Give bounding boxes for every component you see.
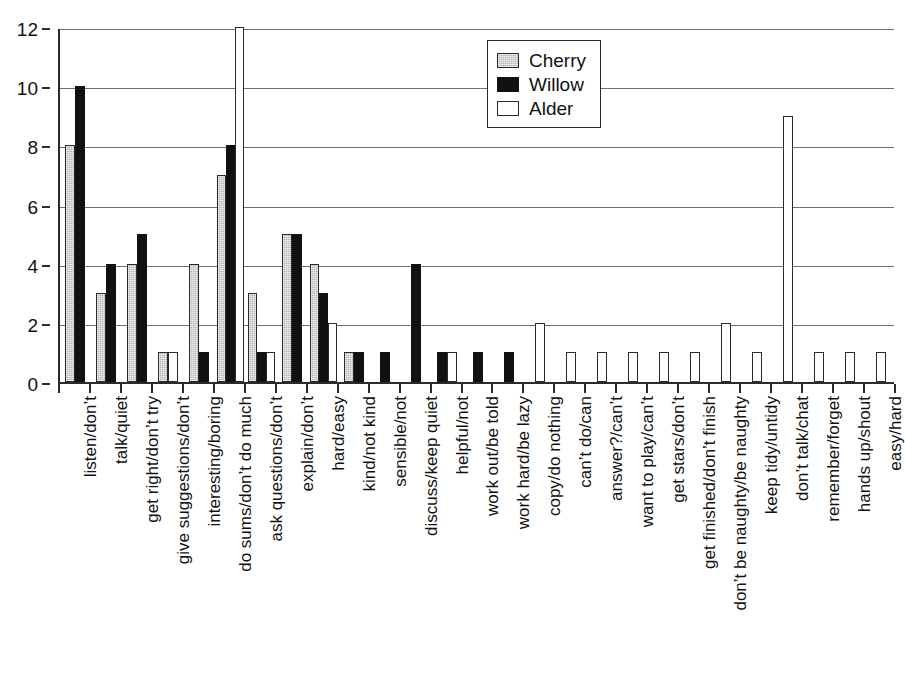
x-tick-mark xyxy=(120,384,122,393)
legend-item-willow[interactable]: Willow xyxy=(497,72,586,96)
bar-alder xyxy=(876,352,886,382)
bar-cherry xyxy=(248,293,257,382)
bar-alder xyxy=(628,352,638,382)
bar-cherry xyxy=(344,352,354,382)
x-tick-mark xyxy=(677,384,679,393)
bar-group xyxy=(679,29,710,382)
x-tick-label: ask questions/don’t xyxy=(268,396,285,542)
bar-cherry xyxy=(127,264,137,382)
bar-cherry xyxy=(282,234,292,382)
y-tick-label: 0 xyxy=(27,375,38,394)
x-tick-label: get finished/don’t finish xyxy=(701,396,718,569)
bar-alder xyxy=(535,323,545,382)
bar-alder xyxy=(597,352,607,382)
x-tick-mark xyxy=(399,384,401,393)
x-tick-mark xyxy=(58,384,60,393)
legend-label: Willow xyxy=(529,75,584,94)
bar-alder xyxy=(447,352,457,382)
x-tick-mark xyxy=(461,384,463,393)
bar-group xyxy=(432,29,463,382)
x-tick-mark xyxy=(306,384,308,393)
bar-willow xyxy=(319,293,328,382)
x-tick-label: interesting/boring xyxy=(206,396,223,526)
bar-willow xyxy=(354,352,364,382)
y-tick-mark xyxy=(42,206,50,208)
bar-alder xyxy=(721,323,731,382)
bar-group xyxy=(617,29,648,382)
y-tick-label: 2 xyxy=(27,315,38,334)
x-tick-mark xyxy=(615,384,617,393)
y-tick-mark xyxy=(42,28,50,30)
bar-alder xyxy=(783,116,793,382)
x-tick-label: copy/do nothing xyxy=(546,396,563,516)
legend-item-cherry[interactable]: Cherry xyxy=(497,48,586,72)
x-tick-label: get right/don’t try xyxy=(144,396,161,523)
bar-alder xyxy=(659,352,669,382)
bar-willow xyxy=(411,264,421,382)
bar-group xyxy=(122,29,153,382)
x-axis-labels: listen/don’ttalk/quietget right/don’t tr… xyxy=(58,396,894,696)
bar-group xyxy=(91,29,122,382)
x-tick-label: don’t be naughty/be naughty xyxy=(732,396,749,611)
bar-willow xyxy=(75,86,85,382)
y-tick-mark xyxy=(42,146,50,148)
x-tick-mark xyxy=(337,384,339,393)
bar-cherry xyxy=(217,175,226,382)
legend-swatch-icon xyxy=(497,101,519,116)
x-axis-ticks xyxy=(58,384,894,393)
legend-swatch-icon xyxy=(497,53,519,68)
x-tick-label: get stars/don’t xyxy=(670,396,687,503)
x-tick-label: want to play/can’t xyxy=(639,396,656,527)
x-tick-label: discuss/keep quiet xyxy=(423,396,440,536)
y-tick-label: 4 xyxy=(27,256,38,275)
bar-group xyxy=(370,29,401,382)
bar-group xyxy=(153,29,184,382)
bar-group xyxy=(741,29,772,382)
x-tick-mark xyxy=(832,384,834,393)
x-tick-mark xyxy=(430,384,432,393)
x-tick-mark xyxy=(584,384,586,393)
x-tick-mark xyxy=(894,384,896,393)
bar-willow xyxy=(106,264,116,382)
bar-cherry xyxy=(65,145,75,382)
x-tick-label: remember/forget xyxy=(825,396,842,522)
bar-alder xyxy=(814,352,824,382)
x-tick-mark xyxy=(522,384,524,393)
y-tick-label: 12 xyxy=(17,20,38,39)
bar-willow xyxy=(437,352,447,382)
x-tick-mark xyxy=(368,384,370,393)
bar-group xyxy=(710,29,741,382)
bar-group xyxy=(184,29,215,382)
bar-willow xyxy=(199,352,209,382)
bar-group xyxy=(339,29,370,382)
x-tick-label: explain/don’t xyxy=(299,396,316,491)
bar-willow xyxy=(380,352,390,382)
bar-group xyxy=(308,29,339,382)
bar-group xyxy=(60,29,91,382)
bar-alder xyxy=(168,352,178,382)
x-tick-label: answer?/can’t xyxy=(608,396,625,501)
x-tick-mark xyxy=(770,384,772,393)
x-tick-label: kind/not kind xyxy=(361,396,378,491)
y-tick-mark xyxy=(42,324,50,326)
bars-layer xyxy=(60,29,894,382)
x-tick-label: do sums/don’t do much xyxy=(237,396,254,572)
bar-willow xyxy=(473,352,483,382)
bar-willow xyxy=(257,352,266,382)
bar-cherry xyxy=(96,293,106,382)
x-tick-mark xyxy=(739,384,741,393)
bar-willow xyxy=(292,234,302,382)
bar-alder xyxy=(328,323,337,382)
y-tick-mark xyxy=(42,265,50,267)
bar-cherry xyxy=(189,264,199,382)
legend-label: Alder xyxy=(529,99,573,118)
legend-item-alder[interactable]: Alder xyxy=(497,96,586,120)
x-tick-label: keep tidy/untidy xyxy=(763,396,780,514)
bar-alder xyxy=(690,352,700,382)
bar-group xyxy=(401,29,432,382)
x-tick-label: hands up/shout xyxy=(856,396,873,512)
bar-group xyxy=(277,29,308,382)
bar-alder xyxy=(845,352,855,382)
bar-group xyxy=(803,29,834,382)
bar-cherry xyxy=(158,352,168,382)
